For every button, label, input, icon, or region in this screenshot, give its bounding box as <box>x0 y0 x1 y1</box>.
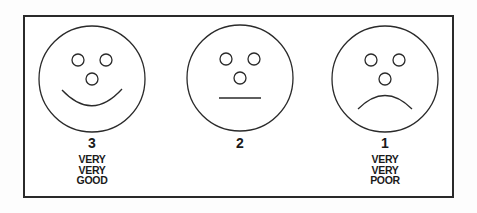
sad-face-icon <box>332 26 438 132</box>
neutral-face-icon <box>187 25 293 131</box>
rating-number: 1 <box>325 136 445 150</box>
happy-face-icon <box>39 26 145 132</box>
rating-option-3[interactable]: 3 VERY VERY GOOD <box>32 136 152 186</box>
rating-number: 3 <box>32 136 152 150</box>
label-line: GOOD <box>32 175 152 186</box>
rating-number: 2 <box>180 136 300 150</box>
rating-label: VERY VERY POOR <box>325 154 445 186</box>
rating-option-2[interactable]: 2 <box>180 136 300 150</box>
label-line: POOR <box>325 175 445 186</box>
rating-label: VERY VERY GOOD <box>32 154 152 186</box>
label-line: VERY <box>32 154 152 165</box>
label-line: VERY <box>325 154 445 165</box>
rating-option-1[interactable]: 1 VERY VERY POOR <box>325 136 445 186</box>
